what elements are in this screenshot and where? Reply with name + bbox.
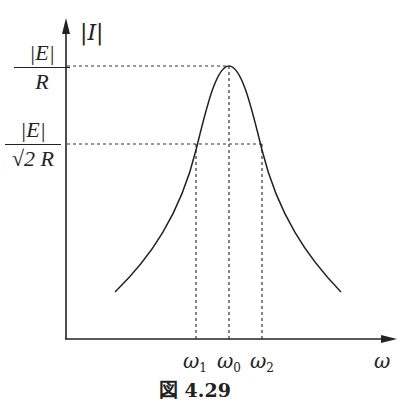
y-tick-half-power: |E| √2 R [5,117,61,172]
figure-caption: 図 4.29 [159,375,231,402]
x-axis-label: ω [374,349,390,373]
y-tick-peak-numerator: |E| [14,40,70,66]
subscript: 2 [266,361,274,375]
resonance-curve [115,66,341,292]
omega-symbol: ω [217,349,233,373]
fraction-bar [14,67,70,68]
y-axis-arrow-icon [62,18,70,34]
y-tick-peak-denominator: R [14,69,70,95]
subscript: 1 [199,361,207,375]
subscript: 0 [233,361,241,375]
y-axis-label: |I| [80,20,104,45]
y-tick-peak: |E| R [14,40,70,95]
x-axis-arrow-icon [381,335,397,343]
y-tick-half-power-denominator: √2 R [5,146,61,172]
y-tick-half-power-numerator: |E| [5,117,61,143]
omega-symbol: ω [183,349,199,373]
resonance-figure: |I| |E| R |E| √2 R ω1 ω0 ω2 ω 図 4.29 [0,0,410,412]
omega-symbol: ω [250,349,266,373]
fraction-bar [5,144,61,145]
x-tick-omega2: ω2 [250,349,274,375]
x-tick-omega0: ω0 [217,349,241,375]
x-tick-omega1: ω1 [183,349,207,375]
